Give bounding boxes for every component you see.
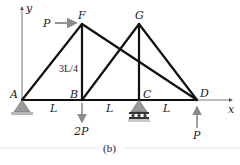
dim-label-CD: L bbox=[162, 102, 170, 115]
y-axis-label: y bbox=[25, 2, 33, 15]
dim-label-AB: L bbox=[49, 102, 57, 115]
figure-caption: (b) bbox=[103, 142, 116, 155]
node-label-G: G bbox=[135, 9, 144, 22]
node-label-B: B bbox=[69, 88, 78, 101]
truss-members bbox=[22, 24, 197, 100]
node-label-F: F bbox=[77, 9, 86, 22]
dim-label-height: 3L/4 bbox=[59, 63, 78, 74]
node-label-D: D bbox=[199, 87, 209, 100]
load-label-B: 2P bbox=[73, 125, 89, 138]
dim-label-BC: L bbox=[105, 102, 113, 115]
load-label-D: P bbox=[192, 129, 201, 142]
node-label-A: A bbox=[9, 88, 18, 101]
load-label-F: P bbox=[42, 17, 51, 30]
member-BG bbox=[82, 24, 139, 100]
truss-diagram: A B C D F G y x P 2P P L L L 3L/4 (b) bbox=[0, 0, 240, 165]
roller-support-C bbox=[128, 100, 150, 122]
node-label-C: C bbox=[143, 88, 152, 101]
x-axis-label: x bbox=[228, 103, 235, 116]
pin-support-A bbox=[11, 100, 33, 115]
